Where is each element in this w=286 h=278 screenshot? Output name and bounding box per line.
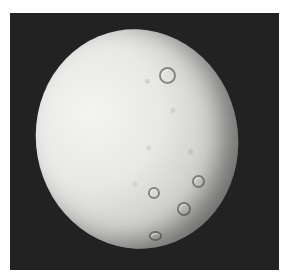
crater-upper	[159, 67, 176, 84]
crater-bottom	[149, 231, 162, 241]
crater-lower-right-1	[192, 175, 205, 188]
crater-lower-mid	[148, 187, 160, 199]
crater-lower-right-2	[177, 202, 191, 216]
